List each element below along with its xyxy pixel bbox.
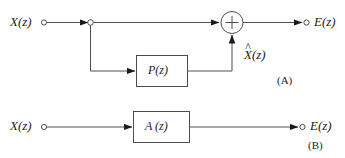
panel-a-input-terminal (41, 20, 46, 25)
panel-b-tag: (B) (308, 140, 323, 151)
panel-a-branch-node (88, 20, 94, 26)
panel-a-output-terminal (304, 20, 309, 25)
panel-b-output-label: E(z) (310, 119, 332, 132)
panel-b-input-label: X(z) (10, 119, 32, 132)
panel-a-output-label: E(z) (314, 15, 336, 28)
circumflex-accent-icon: ^ (244, 41, 252, 53)
panel-b-block-label: A (z) (145, 120, 168, 132)
diagram-canvas (0, 0, 345, 158)
panel-b-output-terminal (300, 124, 305, 129)
panel-b-input-terminal (41, 124, 46, 129)
panel-a-block-label: P(z) (148, 64, 168, 76)
panel-a-tag: (A) (277, 75, 292, 86)
block-diagram-figure: X(z) E(z) P(z) ^ X (z) (A) X(z) E(z) A (… (0, 0, 345, 158)
panel-a-feedback-label-suffix: (z) (252, 47, 266, 62)
panel-a-input-label: X(z) (10, 15, 32, 28)
panel-a-feedback-label: ^ X (z) (244, 48, 266, 61)
